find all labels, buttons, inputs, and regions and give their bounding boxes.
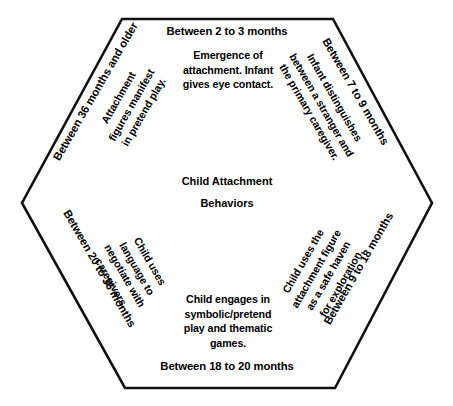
diagram-canvas: Between 2 to 3 months Emergence of attac… (0, 0, 453, 406)
sector-bottom-heading: Between 18 to 20 months (127, 360, 327, 374)
center-label: Child Attachment Behaviors (146, 170, 308, 214)
